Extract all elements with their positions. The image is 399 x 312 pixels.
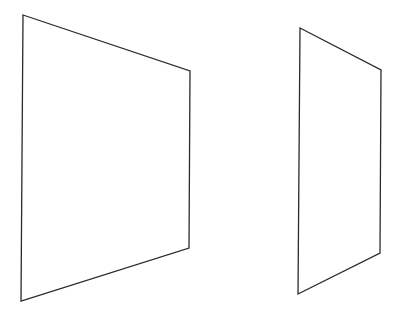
small-quadrilateral [298, 28, 381, 294]
diagram-canvas [0, 0, 399, 312]
large-quadrilateral [21, 15, 190, 301]
